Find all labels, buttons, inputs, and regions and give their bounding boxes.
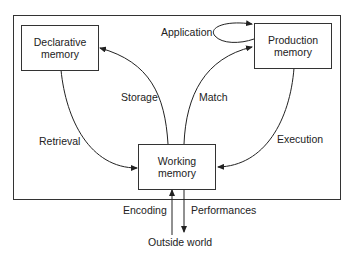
outside-world-label: Outside world bbox=[148, 236, 212, 248]
production-memory-line1: Production bbox=[268, 34, 318, 47]
retrieval-arrow bbox=[61, 70, 137, 168]
production-memory-line2: memory bbox=[274, 46, 312, 59]
performances-label: Performances bbox=[191, 204, 256, 216]
storage-label: Storage bbox=[121, 91, 158, 103]
retrieval-label: Retrieval bbox=[39, 135, 80, 147]
working-memory-line2: memory bbox=[158, 167, 196, 180]
working-memory-box: Working memory bbox=[138, 144, 216, 190]
working-memory-line1: Working bbox=[158, 155, 196, 168]
execution-label: Execution bbox=[277, 133, 323, 145]
application-loop-arrow bbox=[213, 23, 254, 43]
declarative-memory-line2: memory bbox=[41, 48, 79, 61]
declarative-memory-box: Declarative memory bbox=[21, 25, 99, 71]
execution-arrow bbox=[218, 68, 294, 167]
application-label: Application bbox=[161, 26, 212, 38]
production-memory-box: Production memory bbox=[254, 23, 332, 69]
declarative-memory-line1: Declarative bbox=[34, 36, 87, 49]
encoding-label: Encoding bbox=[123, 204, 167, 216]
match-label: Match bbox=[199, 91, 228, 103]
